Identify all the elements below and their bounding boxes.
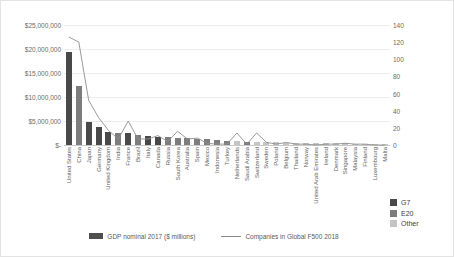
x-axis-tick: Malaysia [350,147,360,209]
x-axis-tick: Mexico [202,147,212,209]
x-axis-tick: Russia [163,147,173,209]
x-axis-label: Singapore [342,147,348,174]
y-axis-tick-left: $10,000,000 [25,94,61,101]
x-axis-labels: United StatesChinaJapanGermanyUnited Kin… [64,147,390,209]
x-axis-label: China [76,147,82,163]
y-axis-tick-right: 120 [393,39,404,46]
x-axis-tick: United States [64,147,74,209]
line-swatch-icon [221,236,241,237]
x-axis-tick: Malta [380,147,390,209]
x-axis-label: Japan [86,147,92,163]
x-axis-tick: Canada [153,147,163,209]
plot-area [64,25,390,145]
y-axis-tick-right: 20 [393,124,400,131]
x-axis-label: Finland [362,147,368,167]
category-legend-label: Other [401,220,419,227]
x-axis-label: Luxembourg [372,147,378,180]
x-axis-label: United Kingdom [105,147,111,190]
x-axis-tick: India [113,147,123,209]
x-axis-label: Saudi Arabia [244,147,250,181]
x-axis-tick: Norway [301,147,311,209]
category-legend-label: G7 [401,199,410,206]
x-axis-label: Belgium [283,147,289,169]
x-axis-tick: Luxembourg [370,147,380,209]
y-axis-tick-left: $- [55,142,61,149]
x-axis-tick: Denmark [331,147,341,209]
x-axis-label: Poland [273,147,279,166]
x-axis-tick: South Korea [173,147,183,209]
x-axis-tick: Turkey [222,147,232,209]
x-axis-tick: Poland [271,147,281,209]
gridline [64,145,390,146]
x-axis-tick: Ireland [321,147,331,209]
x-axis-label: Norway [303,147,309,167]
category-legend-item: G7 [390,199,452,206]
x-axis-label: Switzerland [254,147,260,178]
line-series [64,25,390,145]
y-axis-tick-right: 40 [393,107,400,114]
x-axis-tick: Switzerland [252,147,262,209]
x-axis-label: Denmark [333,147,339,171]
x-axis-label: Russia [165,147,171,165]
category-legend: G7E20Other [390,199,452,231]
x-axis-tick: France [123,147,133,209]
y-axis-tick-right: 80 [393,73,400,80]
x-axis-label: Sweden [263,147,269,169]
x-axis-label: South Korea [175,147,181,180]
category-swatch-icon [390,220,397,227]
x-axis-label: Turkey [224,147,230,165]
x-axis-tick: Italy [143,147,153,209]
category-swatch-icon [390,210,397,217]
x-axis-tick: Singapore [341,147,351,209]
series-legend: GDP nominal 2017 ($ millions) Companies … [64,229,364,243]
x-axis-tick: Netherlands [232,147,242,209]
category-swatch-icon [390,199,397,206]
x-axis-tick: Australia [183,147,193,209]
x-axis-tick: Saudi Arabia [242,147,252,209]
x-axis-label: Italy [145,147,151,158]
legend-item-f500: Companies in Global F500 2018 [221,233,338,240]
x-axis-tick: United Arab Emirates [311,147,321,209]
x-axis-label: Australia [184,147,190,170]
x-axis-tick: United Kingdom [104,147,114,209]
legend-label-f500: Companies in Global F500 2018 [245,233,338,240]
x-axis-tick: Sweden [262,147,272,209]
x-axis-label: Indonesia [214,147,220,173]
x-axis-label: United States [66,147,72,183]
x-axis-label: United Arab Emirates [313,147,319,204]
y-axis-tick-right: 60 [393,90,400,97]
y-axis-tick-left: $20,000,000 [25,46,61,53]
x-axis-label: Brazil [135,147,141,162]
legend-item-gdp: GDP nominal 2017 ($ millions) [89,233,195,240]
x-axis-tick: Finland [360,147,370,209]
x-axis-label: India [115,147,121,160]
x-axis-label: France [125,147,131,166]
x-axis-label: Canada [155,147,161,168]
x-axis-label: Spain [194,147,200,162]
x-axis-tick: Japan [84,147,94,209]
x-axis-tick: Germany [94,147,104,209]
legend-label-gdp: GDP nominal 2017 ($ millions) [107,233,195,240]
y-axis-left: $-$5,000,000$10,000,000$15,000,000$20,00… [1,25,61,145]
y-axis-right: 020406080100120140 [393,25,423,145]
x-axis-label: Germany [96,147,102,172]
x-axis-tick: China [74,147,84,209]
x-axis-label: Netherlands [234,147,240,179]
category-legend-item: Other [390,220,452,227]
x-axis-label: Thailand [293,147,299,170]
y-axis-tick-left: $15,000,000 [25,70,61,77]
category-legend-item: E20 [390,210,452,217]
x-axis-tick: Brazil [133,147,143,209]
y-axis-tick-right: 140 [393,22,404,29]
x-axis-label: Malaysia [352,147,358,171]
chart-container: $-$5,000,000$10,000,000$15,000,000$20,00… [0,0,454,257]
bar-swatch-icon [89,233,103,239]
category-legend-label: E20 [401,210,413,217]
y-axis-tick-right: 0 [393,142,397,149]
y-axis-tick-left: $5,000,000 [28,118,61,125]
x-axis-label: Ireland [323,147,329,165]
y-axis-tick-left: $25,000,000 [25,22,61,29]
line-path [69,37,385,145]
x-axis-tick: Belgium [281,147,291,209]
x-axis-tick: Thailand [291,147,301,209]
